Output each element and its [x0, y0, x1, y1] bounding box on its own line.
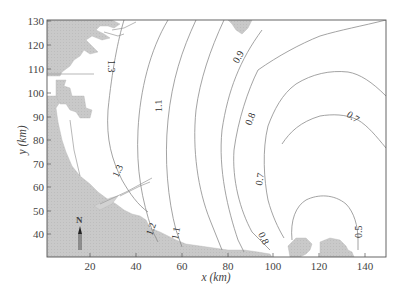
y-tick-label: 130	[28, 15, 45, 27]
contour-label: 1.1	[153, 99, 164, 112]
y-tick-label: 120	[28, 39, 45, 51]
y-tick-label: 50	[33, 205, 45, 217]
x-tick-label: 20	[85, 260, 97, 272]
contour-label: 1.3	[106, 60, 117, 73]
y-tick-label: 100	[28, 87, 45, 99]
x-tick-label: 60	[177, 260, 189, 272]
x-tick-label: 40	[131, 260, 143, 272]
y-tick-label: 60	[33, 181, 45, 193]
contour-label: 0.7	[253, 172, 266, 186]
contour-label: 0.5	[353, 226, 364, 239]
plot-area: 1.3 1.3 1.2 1.1 1.1 0.9 0.8 0.8 0.7 0.7 …	[47, 20, 386, 257]
x-tick-label: 140	[357, 260, 374, 272]
y-tick-label: 80	[33, 134, 45, 146]
contour-label: 1.1	[169, 226, 182, 240]
y-tick-label: 70	[33, 158, 45, 170]
contour-chart: 1.3 1.3 1.2 1.1 1.1 0.9 0.8 0.8 0.7 0.7 …	[0, 0, 408, 297]
y-tick-label: 90	[33, 111, 45, 123]
x-tick-label: 120	[311, 260, 328, 272]
y-axis-tick-labels: 40 50 60 70 80 90 100 110 120 130	[28, 15, 45, 240]
y-tick-label: 40	[33, 228, 45, 240]
north-label: N	[76, 215, 83, 225]
x-axis-label: x (km)	[200, 271, 230, 284]
y-tick-label: 110	[28, 63, 45, 75]
contour-figure: 1.3 1.3 1.2 1.1 1.1 0.9 0.8 0.8 0.7 0.7 …	[0, 0, 408, 297]
y-axis-label: y (km)	[16, 125, 29, 155]
x-tick-label: 100	[265, 260, 282, 272]
